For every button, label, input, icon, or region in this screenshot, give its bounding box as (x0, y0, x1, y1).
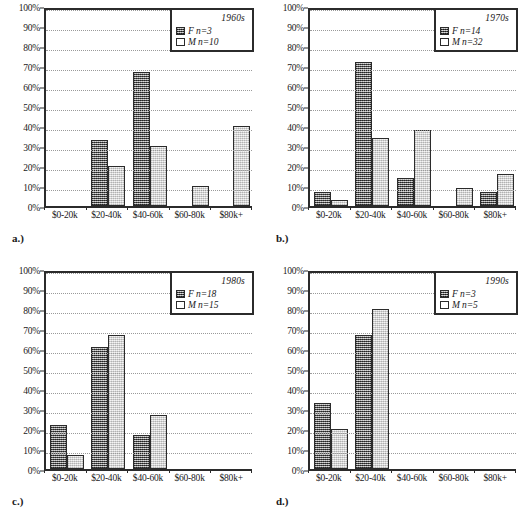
legend-c: 1980s F n=18 M n=15 (170, 271, 254, 315)
legend-label-female-d: F n=3 (452, 289, 476, 299)
x-tick-label: $0-20k (316, 210, 342, 220)
x-tick-label: $40-60k (133, 210, 163, 220)
y-tick-label: 10% (23, 446, 40, 456)
legend-label-female-c: F n=18 (188, 289, 216, 299)
y-tick-label: 40% (287, 123, 304, 133)
gridline (310, 150, 516, 151)
x-tick-label: $40-60k (133, 473, 163, 483)
bar-female-0-20k (314, 192, 331, 206)
gridline (46, 70, 252, 71)
x-tick-label: $80k+ (220, 210, 243, 220)
legend-title-c: 1980s (176, 275, 247, 288)
legend-row-female-c: F n=18 (176, 288, 247, 299)
y-tick-label: 90% (23, 23, 40, 33)
y-tick-label: 100% (283, 3, 304, 13)
bar-male-0-20k (331, 429, 348, 469)
y-tick-label: 20% (23, 163, 40, 173)
x-tick-label: $20-40k (355, 210, 385, 220)
legend-row-female-b: F n=14 (440, 25, 511, 36)
legend-swatch-male-icon (176, 38, 185, 46)
legend-title-d: 1990s (440, 275, 511, 288)
x-axis-labels-a: $0-20k$20-40k$40-60k$60-80k$80k+ (30, 210, 266, 226)
legend-label-male-a: M n=10 (188, 37, 218, 47)
legend-swatch-female-icon (176, 27, 185, 35)
gridline (46, 170, 252, 171)
gridline (46, 413, 252, 414)
panel-caption-a: a.) (12, 232, 24, 244)
y-tick-label: 10% (287, 446, 304, 456)
x-tick-label: $0-20k (52, 210, 78, 220)
x-axis-labels-d: $0-20k$20-40k$40-60k$60-80k$80k+ (294, 473, 528, 489)
gridline (46, 130, 252, 131)
legend-row-female-a: F n=3 (176, 25, 247, 36)
gridline (310, 393, 516, 394)
gridline (310, 453, 516, 454)
y-tick-label: 70% (23, 326, 40, 336)
y-tick-label: 20% (23, 426, 40, 436)
gridline (310, 170, 516, 171)
gridline (46, 393, 252, 394)
legend-swatch-female-icon (440, 27, 449, 35)
y-tick-label: 10% (23, 183, 40, 193)
x-tick-label: $40-60k (397, 473, 427, 483)
legend-label-male-c: M n=15 (188, 300, 218, 310)
y-tick-label: 40% (287, 386, 304, 396)
y-tick-label: 70% (287, 326, 304, 336)
legend-row-male-c: M n=15 (176, 299, 247, 310)
y-tick-label: 30% (287, 143, 304, 153)
x-tick-label: $40-60k (397, 210, 427, 220)
y-tick-label: 50% (23, 366, 40, 376)
gridline (310, 413, 516, 414)
legend-label-male-d: M n=5 (452, 300, 478, 310)
gridline (46, 190, 252, 191)
y-tick-label: 100% (19, 266, 40, 276)
y-tick-label: 90% (23, 286, 40, 296)
y-tick-label: 90% (287, 23, 304, 33)
x-tick-label: $80k+ (484, 210, 507, 220)
chart-panel-b: 0%10%20%30%40%50%60%70%80%90%100% $0-20k… (264, 0, 528, 263)
bar-male-0-20k (67, 455, 84, 469)
x-tick-label: $60-80k (438, 210, 468, 220)
y-tick-label: 90% (287, 286, 304, 296)
x-tick-label: $20-40k (91, 210, 121, 220)
income-by-decade-figure: 0%10%20%30%40%50%60%70%80%90%100% $0-20k… (0, 0, 528, 526)
gridline (310, 333, 516, 334)
legend-swatch-male-icon (176, 301, 185, 309)
y-tick-label: 60% (287, 346, 304, 356)
x-tick-label: $0-20k (316, 473, 342, 483)
y-tick-label: 20% (287, 163, 304, 173)
y-tick-label: 70% (23, 63, 40, 73)
y-tick-label: 30% (23, 143, 40, 153)
chart-panel-c: 0%10%20%30%40%50%60%70%80%90%100% $0-20k… (0, 263, 264, 526)
x-tick-label: $60-80k (438, 473, 468, 483)
legend-a: 1960s F n=3 M n=10 (170, 8, 254, 52)
y-tick-label: 100% (283, 266, 304, 276)
y-tick-label: 20% (287, 426, 304, 436)
y-tick-label: 40% (23, 123, 40, 133)
y-tick-label: 40% (23, 386, 40, 396)
bar-male-20-40k (108, 166, 125, 206)
bar-male-20-40k (372, 138, 389, 206)
gridline (46, 453, 252, 454)
gridline (46, 110, 252, 111)
y-tick-label: 80% (287, 43, 304, 53)
gridline (310, 373, 516, 374)
y-tick-label: 30% (287, 406, 304, 416)
legend-row-female-d: F n=3 (440, 288, 511, 299)
y-tick-label: 10% (287, 183, 304, 193)
x-axis-labels-c: $0-20k$20-40k$40-60k$60-80k$80k+ (30, 473, 266, 489)
legend-swatch-female-icon (440, 290, 449, 298)
y-axis-d: 0%10%20%30%40%50%60%70%80%90%100% (272, 271, 308, 471)
legend-b: 1970s F n=14 M n=32 (434, 8, 518, 52)
legend-swatch-female-icon (176, 290, 185, 298)
y-axis-c: 0%10%20%30%40%50%60%70%80%90%100% (8, 271, 44, 471)
bar-male-60-80k (192, 186, 209, 206)
gridline (310, 190, 516, 191)
bar-male-40-60k (150, 415, 167, 469)
chart-panel-a: 0%10%20%30%40%50%60%70%80%90%100% $0-20k… (0, 0, 264, 263)
gridline (310, 90, 516, 91)
legend-label-female-a: F n=3 (188, 26, 212, 36)
chart-panel-d: 0%10%20%30%40%50%60%70%80%90%100% $0-20k… (264, 263, 528, 526)
legend-swatch-male-icon (440, 38, 449, 46)
x-tick-label: $60-80k (174, 473, 204, 483)
